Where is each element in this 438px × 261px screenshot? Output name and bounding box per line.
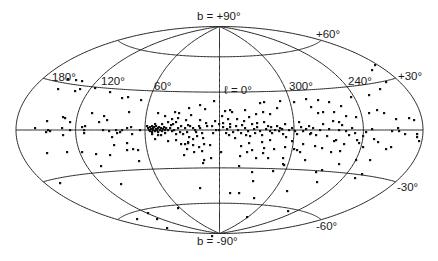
data-point	[188, 136, 190, 138]
data-point	[261, 134, 263, 136]
data-point	[199, 104, 201, 106]
data-point	[184, 143, 186, 145]
data-point	[270, 126, 272, 128]
data-point	[150, 128, 152, 130]
data-point	[46, 120, 48, 122]
data-point	[91, 112, 93, 114]
data-point	[174, 111, 176, 113]
data-point	[234, 137, 236, 139]
data-point	[126, 142, 128, 144]
data-point	[69, 121, 71, 123]
data-point	[79, 88, 81, 90]
data-point	[108, 130, 110, 132]
data-point	[288, 129, 290, 131]
data-point	[256, 126, 258, 128]
latitude-plus60-label: +60°	[316, 28, 340, 40]
data-point	[319, 129, 321, 131]
data-point	[190, 114, 192, 116]
data-point	[259, 102, 261, 104]
data-point	[179, 131, 181, 133]
data-point	[199, 127, 201, 129]
data-point	[413, 119, 415, 121]
data-point	[218, 129, 220, 131]
data-point	[183, 154, 185, 156]
data-point	[45, 131, 47, 133]
data-point	[203, 143, 205, 145]
latitude-minus60-label: -60°	[316, 220, 337, 232]
data-point	[170, 124, 172, 126]
data-point	[121, 129, 123, 131]
data-point	[74, 90, 76, 92]
data-point	[267, 125, 269, 127]
data-point	[314, 145, 316, 147]
south-pole-label: b = -90°	[197, 235, 238, 247]
data-point	[390, 146, 392, 148]
data-point	[228, 134, 230, 136]
data-point	[156, 129, 158, 131]
data-point	[238, 165, 240, 167]
data-point	[49, 130, 51, 132]
data-point	[237, 129, 239, 131]
data-point	[408, 117, 410, 119]
data-point	[251, 171, 253, 173]
data-point	[377, 141, 379, 143]
data-point	[261, 141, 263, 143]
data-point	[365, 131, 367, 133]
data-point	[137, 149, 139, 151]
data-point	[315, 134, 317, 136]
data-point	[149, 130, 151, 132]
data-point	[263, 147, 265, 149]
data-point	[161, 130, 163, 132]
data-point	[298, 121, 300, 123]
data-point	[111, 136, 113, 138]
data-point	[173, 129, 175, 131]
data-point	[46, 152, 48, 154]
data-point	[229, 126, 231, 128]
axis-labels: b = +90° b = -90° ℓ = 0° 60° 120° 180° 2…	[52, 10, 422, 247]
data-point	[163, 126, 165, 128]
data-point	[102, 129, 104, 131]
data-point	[308, 125, 310, 127]
data-point	[236, 118, 238, 120]
data-point	[131, 133, 133, 135]
longitude-60-label: 60°	[154, 80, 171, 92]
data-point	[47, 129, 49, 131]
data-point	[395, 118, 397, 120]
data-point	[379, 88, 381, 90]
data-point	[62, 116, 64, 118]
data-point	[196, 135, 198, 137]
data-point	[130, 126, 132, 128]
data-point	[296, 133, 298, 135]
data-point	[59, 182, 61, 184]
data-point	[152, 129, 154, 131]
data-point	[276, 125, 278, 127]
data-point	[262, 152, 264, 154]
data-point	[109, 154, 111, 156]
data-point	[182, 133, 184, 135]
data-point	[354, 132, 356, 134]
data-point	[358, 142, 360, 144]
data-point	[267, 157, 269, 159]
data-point	[222, 126, 224, 128]
data-point	[81, 151, 83, 153]
data-point	[151, 125, 153, 127]
data-point	[205, 122, 207, 124]
data-point	[227, 118, 229, 120]
data-point	[201, 150, 203, 152]
data-point	[371, 128, 373, 130]
data-point	[98, 121, 100, 123]
data-point	[338, 121, 340, 123]
data-point	[209, 144, 211, 146]
data-point	[157, 131, 159, 133]
data-point	[160, 134, 162, 136]
data-point	[199, 119, 201, 121]
data-point	[345, 130, 347, 132]
data-point	[269, 130, 271, 132]
data-point	[195, 131, 197, 133]
data-point	[177, 117, 179, 119]
data-point	[279, 100, 281, 102]
data-point	[175, 133, 177, 135]
data-point	[385, 148, 387, 150]
data-point	[317, 99, 319, 101]
longitude-300-label: 300°	[289, 80, 313, 92]
